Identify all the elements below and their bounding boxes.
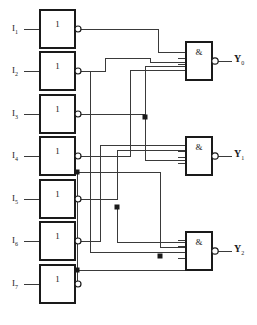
net-i2-b — [90, 71, 186, 252]
junction-3 — [115, 205, 120, 210]
inverter-4-bubble — [75, 153, 81, 159]
net-i4-a — [81, 70, 186, 156]
inverter-4-box — [40, 137, 75, 175]
net-i5-b — [117, 207, 186, 242]
and-gate-Y0-glyph: & — [186, 48, 212, 57]
inverter-3-glyph: 1 — [40, 105, 75, 114]
inverter-5-box — [40, 180, 75, 218]
inverter-5-glyph: 1 — [40, 190, 75, 199]
and-gate-Y1-bubble — [212, 153, 218, 159]
net-i3-a — [81, 66, 186, 114]
junction-5 — [75, 268, 80, 273]
inverter-6-box — [40, 222, 75, 260]
junction-2 — [75, 170, 80, 175]
inverter-3-box — [40, 95, 75, 133]
and-gate-Y1-glyph: & — [186, 143, 212, 152]
output-label-Y2: Y2 — [234, 244, 244, 256]
input-label-I1: I1 — [12, 24, 18, 35]
inverter-7-glyph: 1 — [40, 275, 75, 284]
and-gate-Y0-bubble — [212, 58, 218, 64]
inverter-6-bubble — [75, 238, 81, 244]
net-i2-a — [81, 58, 186, 71]
junction-4 — [158, 254, 163, 259]
inverter-6-glyph: 1 — [40, 232, 75, 241]
inverter-2-bubble — [75, 68, 81, 74]
input-label-I7: I7 — [12, 279, 18, 290]
inverter-7-bubble — [75, 281, 81, 287]
and-gate-Y2-bubble — [212, 248, 218, 254]
input-label-I3: I3 — [12, 109, 18, 120]
net-i6-a — [81, 145, 186, 241]
output-label-Y0: Y0 — [234, 54, 244, 66]
inverter-1-bubble — [75, 26, 81, 32]
net-i3-b — [145, 117, 186, 160]
wire-layer — [0, 0, 257, 325]
inverter-2-box — [40, 52, 75, 90]
junction-1 — [143, 115, 148, 120]
input-label-I6: I6 — [12, 236, 18, 247]
inverter-1-box — [40, 10, 75, 48]
logic-circuit-diagram: I1 I2 I3 I4 I5 I6 I7 1 1 1 1 1 1 1 & & &… — [0, 0, 257, 325]
inverter-1-glyph: 1 — [40, 20, 75, 29]
net-i4-b — [77, 172, 186, 247]
inverter-4-glyph: 1 — [40, 147, 75, 156]
net-i1 — [81, 29, 186, 52]
inverter-3-bubble — [75, 111, 81, 117]
input-label-I2: I2 — [12, 66, 18, 77]
and-gate-Y2-glyph: & — [186, 238, 212, 247]
input-label-I5: I5 — [12, 194, 18, 205]
net-i7 — [77, 172, 81, 284]
inverter-5-bubble — [75, 196, 81, 202]
net-i5-a — [81, 150, 186, 199]
inverter-2-glyph: 1 — [40, 62, 75, 71]
output-label-Y1: Y1 — [234, 149, 244, 161]
inverter-7-box — [40, 265, 75, 303]
input-label-I4: I4 — [12, 151, 18, 162]
